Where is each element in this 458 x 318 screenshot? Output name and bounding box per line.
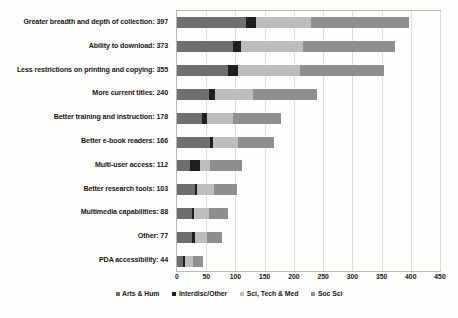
bar-segment-0[interactable] <box>177 137 210 148</box>
stacked-bar-chart: Greater breadth and depth of collection:… <box>0 0 458 318</box>
bar-segment-3[interactable] <box>209 208 229 219</box>
bar-segment-0[interactable] <box>177 208 192 219</box>
category-label-column: Greater breadth and depth of collection:… <box>0 10 172 272</box>
legend-swatch-icon <box>311 292 315 296</box>
bar-row[interactable] <box>177 256 203 267</box>
bar-segment-0[interactable] <box>177 65 228 76</box>
bar-segment-3[interactable] <box>210 160 242 171</box>
legend-label: Soc Sci <box>318 290 343 297</box>
bar-segment-3[interactable] <box>233 113 282 124</box>
bar-segment-2[interactable] <box>200 160 210 171</box>
bar-row[interactable] <box>177 137 274 148</box>
bar-row[interactable] <box>177 160 242 171</box>
bar-segment-1[interactable] <box>228 65 238 76</box>
category-label: Multi-user access: 112 <box>95 161 168 169</box>
bar-segment-0[interactable] <box>177 17 246 28</box>
chart-legend: Arts & HumInterdisc/OtherSci, Tech & Med… <box>0 290 458 297</box>
category-label: Better research tools: 103 <box>83 185 168 193</box>
bar-segment-0[interactable] <box>177 232 192 243</box>
bar-segment-2[interactable] <box>256 17 312 28</box>
bar-segment-2[interactable] <box>241 41 302 52</box>
legend-swatch-icon <box>240 292 244 296</box>
plot-area <box>176 10 441 272</box>
legend-item-0[interactable]: Arts & Hum <box>116 290 160 297</box>
legend-swatch-icon <box>116 292 120 296</box>
bar-segment-1[interactable] <box>246 17 256 28</box>
gridline-400 <box>411 11 412 271</box>
category-label: More current titles: 240 <box>92 89 168 97</box>
legend-label: Arts & Hum <box>122 290 159 297</box>
legend-item-3[interactable]: Soc Sci <box>311 290 342 297</box>
category-label: Multimedia capabilities: 88 <box>81 208 168 216</box>
bar-segment-3[interactable] <box>303 41 395 52</box>
bar-segment-2[interactable] <box>213 137 238 148</box>
bar-segment-3[interactable] <box>300 65 385 76</box>
category-label: Other: 77 <box>138 232 168 240</box>
bar-segment-3[interactable] <box>311 17 409 28</box>
x-tick-label: 200 <box>288 273 299 280</box>
bar-segment-3[interactable] <box>193 256 203 267</box>
legend-swatch-icon <box>172 292 176 296</box>
bar-segment-2[interactable] <box>194 208 209 219</box>
bar-row[interactable] <box>177 113 281 124</box>
bar-segment-2[interactable] <box>197 184 215 195</box>
bar-segment-2[interactable] <box>238 65 299 76</box>
category-label: PDA accessibility: 44 <box>99 256 168 264</box>
gridline-450 <box>440 11 441 271</box>
legend-item-2[interactable]: Sci, Tech & Med <box>240 290 298 297</box>
bar-row[interactable] <box>177 208 228 219</box>
x-tick-label: 100 <box>230 273 241 280</box>
legend-label: Sci, Tech & Med <box>247 290 299 297</box>
x-tick-label: 0 <box>175 273 179 280</box>
bar-row[interactable] <box>177 17 409 28</box>
x-tick-label: 150 <box>259 273 270 280</box>
bar-segment-0[interactable] <box>177 113 202 124</box>
bar-segment-2[interactable] <box>215 89 253 100</box>
bar-row[interactable] <box>177 184 237 195</box>
bar-row[interactable] <box>177 232 222 243</box>
bar-segment-3[interactable] <box>207 232 222 243</box>
bar-row[interactable] <box>177 89 317 100</box>
bar-segment-2[interactable] <box>207 113 232 124</box>
bar-segment-0[interactable] <box>177 89 209 100</box>
bar-segment-3[interactable] <box>238 137 274 148</box>
x-tick-label: 250 <box>317 273 328 280</box>
category-label: Better e-book readers: 166 <box>81 137 168 145</box>
x-axis: 050100150200250300350400450 <box>176 273 441 285</box>
bar-row[interactable] <box>177 65 384 76</box>
bar-segment-2[interactable] <box>185 256 193 267</box>
bar-segment-0[interactable] <box>177 41 233 52</box>
x-tick-label: 400 <box>405 273 416 280</box>
category-label: Less restrictions on printing and copyin… <box>17 66 168 74</box>
x-tick-label: 450 <box>434 273 445 280</box>
category-label: Better training and instruction: 178 <box>54 113 168 121</box>
bar-segment-0[interactable] <box>177 160 190 171</box>
category-label: Greater breadth and depth of collection:… <box>23 18 168 26</box>
bar-segment-0[interactable] <box>177 184 195 195</box>
bar-segment-3[interactable] <box>253 89 317 100</box>
x-tick-label: 50 <box>202 273 210 280</box>
bar-segment-3[interactable] <box>214 184 237 195</box>
legend-item-1[interactable]: Interdisc/Other <box>172 290 227 297</box>
x-tick-label: 300 <box>347 273 358 280</box>
x-tick-label: 350 <box>376 273 387 280</box>
legend-label: Interdisc/Other <box>179 290 227 297</box>
category-label: Ability to download: 373 <box>89 42 168 50</box>
bar-segment-1[interactable] <box>233 41 242 52</box>
bar-segment-2[interactable] <box>195 232 208 243</box>
bar-row[interactable] <box>177 41 395 52</box>
bar-segment-1[interactable] <box>190 160 200 171</box>
